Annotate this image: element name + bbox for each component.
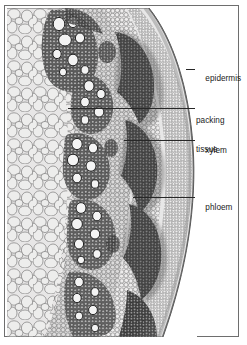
figure-root: epidermis packing tissue xylem phloem bbox=[0, 0, 247, 345]
film-grain bbox=[7, 8, 197, 337]
label-xylem-text: xylem bbox=[205, 146, 227, 155]
label-phloem-text: phloem bbox=[205, 203, 232, 212]
micrograph-image bbox=[7, 8, 197, 337]
label-phloem: phloem bbox=[196, 193, 232, 222]
specimen-section bbox=[7, 8, 197, 337]
leader-line-phloem bbox=[133, 197, 195, 198]
leader-line-epidermis bbox=[186, 69, 195, 70]
label-xylem: xylem bbox=[196, 136, 227, 165]
leader-line-packing-tissue bbox=[68, 108, 195, 109]
label-packing-tissue-line1: packing bbox=[196, 116, 225, 126]
label-epidermis: epidermis bbox=[196, 64, 241, 93]
leader-line-xylem bbox=[124, 140, 195, 141]
label-epidermis-text: epidermis bbox=[205, 74, 241, 83]
